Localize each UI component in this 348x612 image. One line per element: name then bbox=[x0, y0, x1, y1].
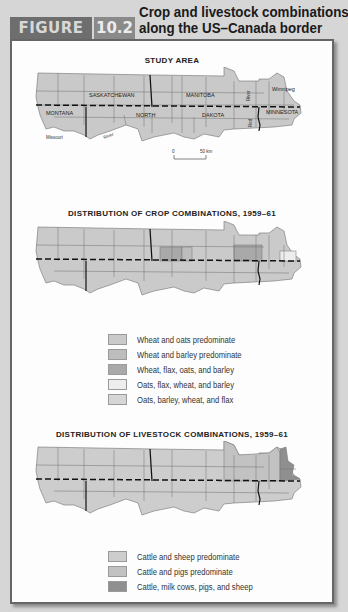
label-red-river: River bbox=[246, 90, 251, 101]
figure-title: Crop and livestock combinations along th… bbox=[139, 4, 328, 36]
scale-start: 0 bbox=[172, 149, 175, 154]
legend-label: Oats, flax, wheat, and barley bbox=[137, 380, 234, 390]
legend-swatch bbox=[108, 364, 127, 375]
crop-legend-item: Wheat and barley predominate bbox=[108, 347, 253, 362]
legend-label: Wheat, flax, oats, and barley bbox=[137, 365, 234, 375]
label-montana: MONTANA bbox=[46, 110, 73, 116]
livestock-legend-item: Cattle and pigs predominate bbox=[108, 564, 266, 579]
region-wheat-flax-oats-barley-2 bbox=[234, 245, 262, 261]
livestock-map-graphic bbox=[34, 441, 322, 551]
crop-legend-item: Wheat and oats predominate bbox=[108, 332, 253, 347]
label-minnesota: MINNESOTA bbox=[266, 109, 299, 115]
livestock-legend-item: Cattle, milk cows, pigs, and sheep bbox=[108, 579, 266, 594]
legend-label: Cattle and pigs predominate bbox=[137, 567, 233, 577]
legend-swatch bbox=[108, 379, 127, 390]
scale-end: 50 km bbox=[200, 149, 213, 154]
region-oats-flax-wheat-barley bbox=[280, 251, 296, 261]
region-outline bbox=[36, 67, 301, 141]
figure-title-line-2: along the US–Canada border bbox=[139, 20, 328, 36]
livestock-map bbox=[34, 441, 322, 551]
region-wheat-barley bbox=[182, 247, 192, 261]
study-area-map-graphic: SASKATCHEWAN MANITOBA Winnipeg MONTANA N… bbox=[34, 67, 322, 177]
legend-label: Wheat and barley predominate bbox=[137, 350, 242, 360]
crop-legend-item: Wheat, flax, oats, and barley bbox=[108, 362, 253, 377]
crop-map-graphic bbox=[34, 221, 322, 331]
legend-swatch bbox=[108, 349, 127, 360]
label-saskatchewan: SASKATCHEWAN bbox=[89, 92, 135, 98]
label-manitoba: MANITOBA bbox=[186, 92, 215, 98]
crop-map-title: DISTRIBUTION OF CROP COMBINATIONS, 1959–… bbox=[12, 209, 332, 218]
figure-panel: STUDY AREA SASKATCHEWAN MANITOBA Winnipe… bbox=[10, 39, 334, 604]
legend-swatch bbox=[108, 334, 127, 345]
study-area-title: STUDY AREA bbox=[12, 56, 332, 65]
livestock-map-title: DISTRIBUTION OF LIVESTOCK COMBINATIONS, … bbox=[12, 430, 332, 439]
label-red: Red bbox=[248, 118, 253, 127]
legend-swatch bbox=[108, 394, 127, 405]
figure-title-line-1: Crop and livestock combinations bbox=[139, 4, 328, 20]
scale-bar: 0 50 km bbox=[172, 149, 213, 159]
region-cattle-milk-pigs-sheep bbox=[280, 447, 300, 481]
figure-number: 10.2 bbox=[94, 17, 135, 40]
legend-swatch bbox=[108, 566, 127, 577]
region-cattle-pigs bbox=[224, 441, 280, 481]
legend-label: Wheat and oats predominate bbox=[137, 335, 235, 345]
label-winnipeg: Winnipeg bbox=[272, 86, 295, 92]
livestock-legend-item: Cattle and sheep predominate bbox=[108, 549, 266, 564]
figure-tag: FIGURE bbox=[10, 17, 92, 40]
region-wheat-flax-oats-barley bbox=[160, 247, 182, 261]
crop-map bbox=[34, 221, 322, 331]
legend-label: Cattle and sheep predominate bbox=[137, 552, 240, 562]
crop-legend: Wheat and oats predominate Wheat and bar… bbox=[108, 332, 253, 407]
crop-legend-item: Oats, barley, wheat, and flax bbox=[108, 392, 253, 407]
legend-label: Cattle, milk cows, pigs, and sheep bbox=[137, 582, 253, 592]
label-dakota: DAKOTA bbox=[202, 112, 225, 118]
label-north: NORTH bbox=[136, 112, 155, 118]
crop-legend-item: Oats, flax, wheat, and barley bbox=[108, 377, 253, 392]
legend-swatch bbox=[108, 581, 127, 592]
figure-header: FIGURE 10.2 Crop and livestock combinati… bbox=[0, 0, 348, 40]
study-area-map: SASKATCHEWAN MANITOBA Winnipeg MONTANA N… bbox=[34, 67, 322, 177]
label-missouri: Missouri bbox=[46, 135, 63, 140]
livestock-legend: Cattle and sheep predominate Cattle and … bbox=[108, 549, 266, 594]
legend-label: Oats, barley, wheat, and flax bbox=[137, 395, 233, 405]
legend-swatch bbox=[108, 551, 127, 562]
